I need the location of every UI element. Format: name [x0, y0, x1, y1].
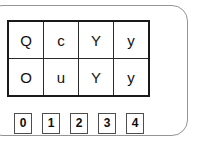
- grid-cell-r1c3[interactable]: y: [114, 59, 150, 97]
- grid-cell-r0c0[interactable]: Q: [8, 21, 44, 59]
- number-button-2[interactable]: 2: [70, 113, 88, 134]
- number-button-3[interactable]: 3: [98, 113, 116, 134]
- grid-cell-r1c0[interactable]: O: [8, 59, 44, 97]
- number-button-1[interactable]: 1: [42, 113, 60, 134]
- grid-cell-r0c1[interactable]: c: [44, 21, 79, 59]
- number-button-row: 0 1 2 3 4: [14, 112, 144, 134]
- table-row: Q c Y y: [8, 21, 149, 59]
- number-button-4[interactable]: 4: [126, 113, 144, 134]
- number-button-0[interactable]: 0: [14, 113, 32, 134]
- grid-cell-r0c2[interactable]: Y: [79, 21, 114, 59]
- grid-cell-r1c2[interactable]: Y: [79, 59, 114, 97]
- table-row: O u Y y: [8, 59, 149, 97]
- grid-cell-r0c3[interactable]: y: [114, 21, 150, 59]
- outer-panel: Q c Y y O u Y y 0 1 2 3 4: [0, 5, 188, 136]
- character-grid: Q c Y y O u Y y: [7, 20, 150, 97]
- grid-cell-r1c1[interactable]: u: [44, 59, 79, 97]
- character-grid-body: Q c Y y O u Y y: [8, 21, 149, 96]
